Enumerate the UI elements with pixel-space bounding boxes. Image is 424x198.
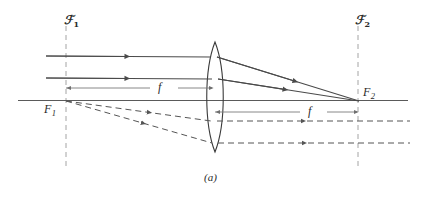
focal-plane-symbol-left: ℱ — [64, 13, 73, 27]
optics-figure: ℱ1 ℱ2 F1 F2 f f (a) — [0, 0, 424, 198]
focal-plane-subscript-left: 1 — [73, 19, 79, 29]
diverging-ray-lower — [66, 101, 212, 143]
focal-point-subscript-left: 1 — [51, 108, 56, 118]
focal-point-label-left: F1 — [44, 103, 56, 118]
focal-plane-subscript-right: 2 — [364, 19, 370, 29]
focal-point-label-right: F2 — [363, 86, 375, 101]
focal-plane-label-left: ℱ1 — [64, 14, 79, 28]
focal-length-label-left: f — [158, 81, 161, 93]
focal-plane-label-right: ℱ2 — [355, 14, 370, 28]
incoming-ray-upper-arrow — [46, 56, 128, 57]
figure-caption: (a) — [204, 172, 217, 183]
focal-point-subscript-right: 2 — [370, 91, 375, 101]
focal-plane-symbol-right: ℱ — [355, 13, 364, 27]
optics-diagram-canvas — [0, 0, 424, 198]
incoming-ray-lower-arrow — [46, 78, 128, 79]
refracted-ray-lower-arrow — [218, 79, 286, 90]
focal-length-label-right: f — [308, 105, 311, 117]
diverging-ray-upper — [66, 101, 211, 121]
refracted-ray-upper-arrow — [217, 57, 296, 82]
